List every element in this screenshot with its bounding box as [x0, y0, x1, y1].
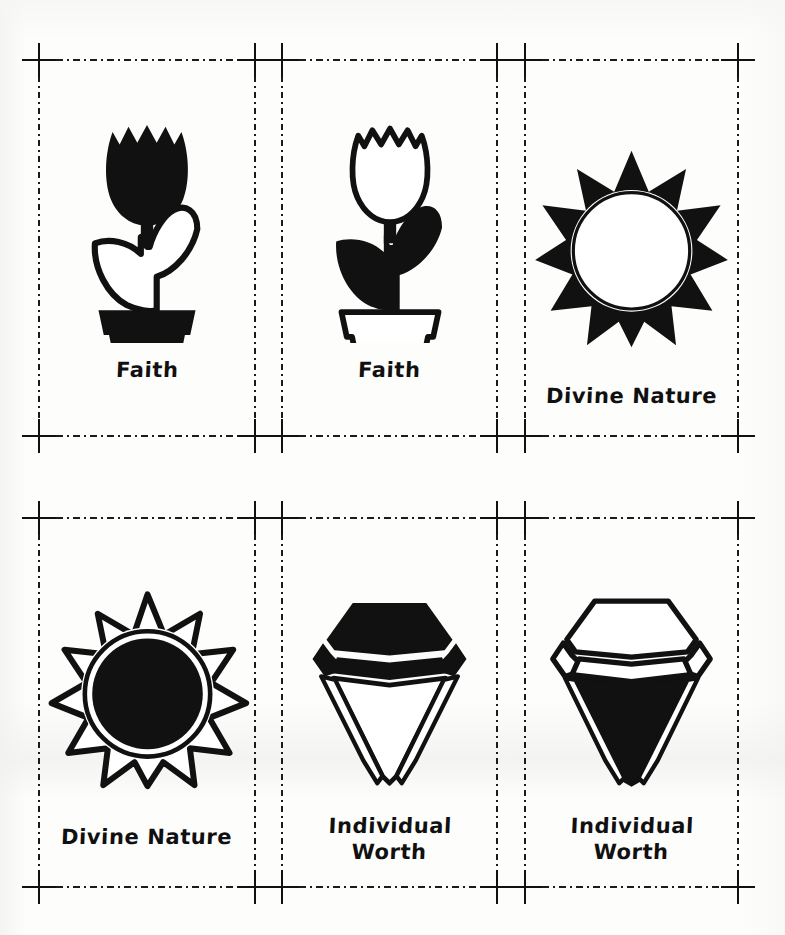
cell-caption: Faith [115, 358, 179, 384]
sun-icon [525, 60, 738, 384]
crop-mark [265, 419, 299, 453]
cell-caption: Faith [358, 358, 422, 384]
crop-mark [265, 501, 299, 535]
crop-mark [508, 501, 542, 535]
potted-tulip-icon [39, 60, 255, 358]
clip-art-cell-faith-solid[interactable]: Faith [39, 60, 255, 436]
crop-mark [721, 43, 755, 77]
clip-art-sheet: Faith Faith [0, 0, 785, 935]
crop-mark [22, 870, 56, 904]
cell-caption: Divine Nature [545, 384, 717, 410]
diamond-icon [282, 518, 497, 814]
crop-mark [508, 419, 542, 453]
crop-mark [265, 870, 299, 904]
crop-mark [721, 870, 755, 904]
potted-tulip-icon [282, 60, 497, 358]
crop-mark [22, 501, 56, 535]
diamond-icon [525, 518, 738, 814]
clip-art-cell-individual-worth-outline[interactable]: Individual Worth [525, 518, 738, 887]
crop-mark [508, 43, 542, 77]
crop-mark [22, 419, 56, 453]
crop-mark [508, 870, 542, 904]
cell-caption: Divine Nature [61, 825, 233, 851]
cell-caption: Individual Worth [327, 814, 452, 865]
crop-mark [721, 419, 755, 453]
clip-art-cell-faith-outline[interactable]: Faith [282, 60, 497, 436]
clip-art-cell-individual-worth-solid[interactable]: Individual Worth [282, 518, 497, 887]
clip-art-cell-divine-nature-solid[interactable]: Divine Nature [525, 60, 738, 436]
crop-mark [721, 501, 755, 535]
crop-mark [265, 43, 299, 77]
crop-mark [22, 43, 56, 77]
sun-icon [39, 518, 255, 825]
cell-caption: Individual Worth [569, 814, 694, 865]
clip-art-cell-divine-nature-outline[interactable]: Divine Nature [39, 518, 255, 887]
